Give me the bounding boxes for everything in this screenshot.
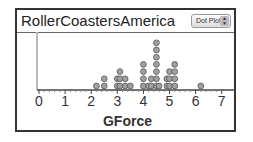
data-dot xyxy=(154,47,160,53)
data-dot xyxy=(156,83,162,89)
data-dot xyxy=(101,76,107,82)
data-dot xyxy=(154,54,160,60)
data-dot xyxy=(141,62,147,68)
x-tick-label: 7 xyxy=(215,93,229,109)
data-dot xyxy=(141,69,147,75)
dot-plot-panel: RollerCoastersAmerica Dot Plot ▲▼ 012345… xyxy=(15,8,236,132)
x-tick-label: 6 xyxy=(189,93,203,109)
data-dot xyxy=(122,76,128,82)
data-dot xyxy=(172,76,178,82)
data-dots xyxy=(94,40,204,89)
x-tick-label: 0 xyxy=(32,93,46,109)
data-dot xyxy=(127,83,133,89)
x-tick-label: 3 xyxy=(110,93,124,109)
data-dot xyxy=(172,83,178,89)
x-tick-label: 1 xyxy=(58,93,72,109)
data-dot xyxy=(172,62,178,68)
x-tick-label: 5 xyxy=(163,93,177,109)
data-dot xyxy=(117,69,123,75)
x-axis-label: GForce xyxy=(17,113,238,129)
x-tick-label: 2 xyxy=(84,93,98,109)
data-dot xyxy=(154,76,160,82)
data-dot xyxy=(101,83,107,89)
data-dot xyxy=(154,62,160,68)
data-dot xyxy=(198,83,204,89)
data-dot xyxy=(154,69,160,75)
data-dot xyxy=(94,83,100,89)
data-dot xyxy=(154,40,160,46)
x-tick-label: 4 xyxy=(136,93,150,109)
data-dot xyxy=(172,69,178,75)
data-dot xyxy=(141,76,147,82)
